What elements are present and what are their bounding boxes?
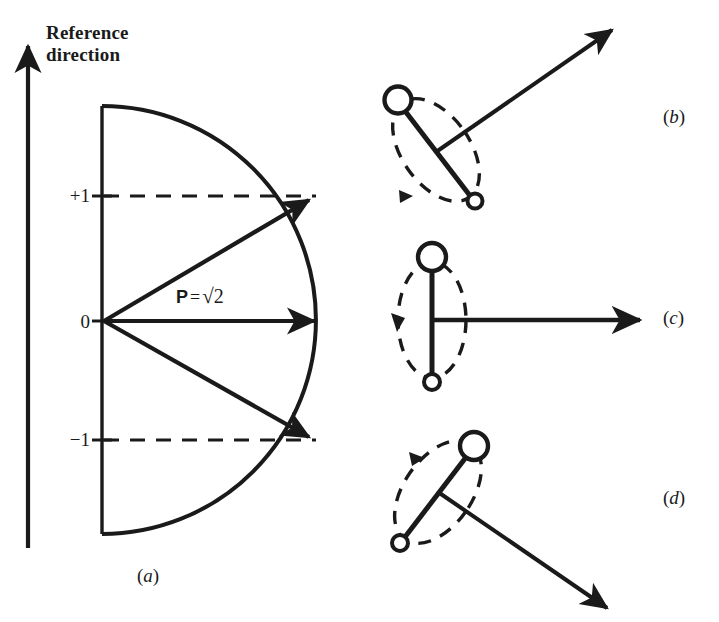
panel-label-d-close: ) bbox=[679, 487, 685, 508]
tick-label-plus-one: +1 bbox=[46, 185, 90, 207]
connecting-rod-d bbox=[405, 452, 470, 537]
large-body-b bbox=[385, 87, 412, 114]
panel-label-b-close: ) bbox=[679, 106, 685, 127]
panel-label-b: (b) bbox=[663, 106, 685, 128]
tick-label-minus-one: −1 bbox=[46, 429, 90, 451]
rotation-arrowhead-c bbox=[391, 313, 405, 332]
magnitude-radicand: 2 bbox=[214, 285, 224, 307]
polarization-arrow-d bbox=[438, 492, 607, 608]
figure-canvas bbox=[0, 0, 719, 622]
panel-label-a-letter: a bbox=[143, 565, 153, 586]
reference-direction-label: Reference direction bbox=[46, 22, 129, 66]
small-body-b bbox=[468, 194, 483, 209]
rotation-arrowhead-b bbox=[399, 190, 413, 203]
panel-a-graphics bbox=[28, 46, 316, 548]
rotation-arrowhead-d bbox=[409, 452, 425, 466]
panel-c-graphics bbox=[391, 243, 640, 390]
polarization-arrow-b bbox=[436, 30, 612, 152]
small-body-c bbox=[424, 374, 440, 390]
panel-label-d-letter: d bbox=[669, 487, 679, 508]
figure-root: Reference direction +1 0 −1 P=√2 (a) (b)… bbox=[0, 0, 719, 622]
small-body-d bbox=[392, 535, 408, 551]
magnitude-label: P=√2 bbox=[176, 284, 224, 308]
panel-label-c-letter: c bbox=[669, 307, 677, 328]
panel-d-graphics bbox=[377, 425, 607, 608]
tick-label-zero: 0 bbox=[46, 311, 90, 333]
magnitude-radical: √ bbox=[202, 284, 214, 308]
magnitude-equals: = bbox=[188, 287, 202, 307]
panel-label-c: (c) bbox=[663, 307, 684, 329]
panel-label-c-close: ) bbox=[678, 307, 684, 328]
large-body-c bbox=[418, 243, 446, 271]
panel-label-a-close: ) bbox=[153, 565, 159, 586]
magnitude-symbol: P bbox=[176, 287, 188, 307]
panel-label-d: (d) bbox=[663, 487, 685, 509]
panel-b-graphics bbox=[375, 30, 612, 217]
large-body-d bbox=[460, 432, 488, 460]
panel-label-b-letter: b bbox=[669, 106, 679, 127]
vector-down bbox=[104, 321, 309, 437]
panel-label-a: (a) bbox=[137, 565, 159, 587]
